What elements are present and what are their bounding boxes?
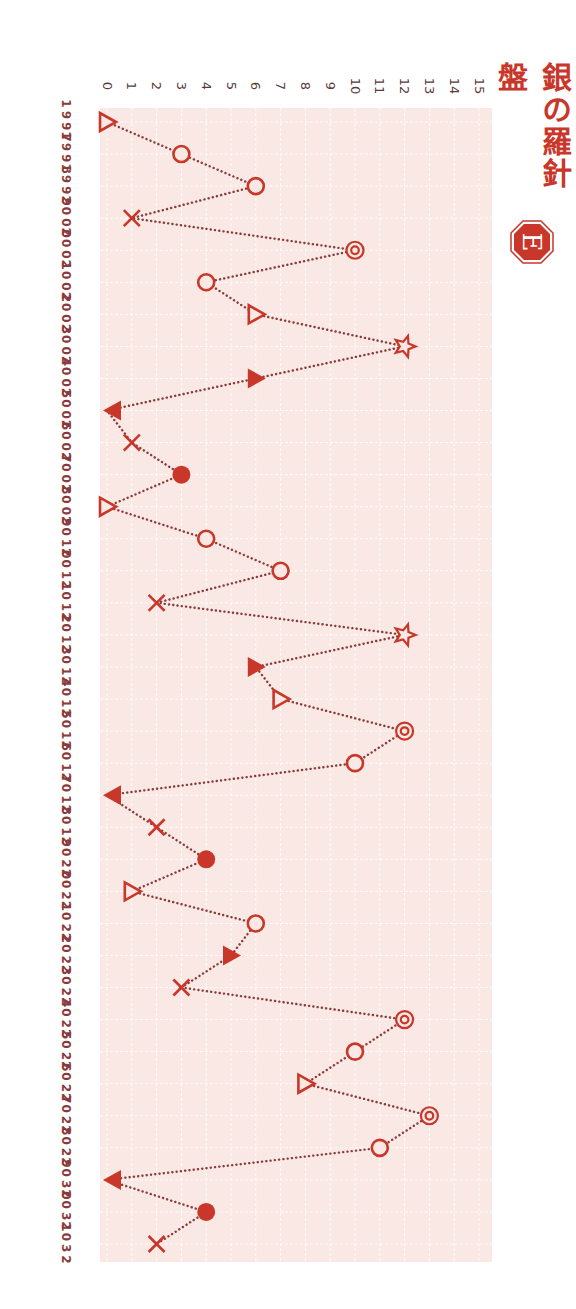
value-axis-tick-label: 0: [100, 82, 115, 90]
chart-title: 銀の羅針盤: [488, 62, 576, 212]
value-axis-tick-label: 1: [124, 82, 139, 90]
value-axis-tick-label: 11: [372, 78, 387, 95]
value-axis-tick-label: 9: [323, 82, 338, 90]
circle-open-marker-icon: [372, 1140, 388, 1156]
value-axis-tick-label: 14: [447, 78, 462, 95]
badge-letter: E: [517, 233, 547, 252]
value-axis-tick-label: 10: [348, 78, 363, 95]
double-circle-marker-icon: [396, 1011, 413, 1028]
circle-open-marker-icon: [198, 274, 214, 290]
value-axis-tick-label: 5: [224, 82, 239, 90]
value-axis-tick-label: 7: [273, 82, 288, 90]
value-axis-tick-label: 15: [472, 78, 487, 95]
value-axis-tick-label: 8: [298, 82, 313, 90]
circle-filled-marker-icon: [197, 1203, 215, 1221]
year-axis-labels: 1997199819992000200120022003200420052006…: [59, 99, 73, 1266]
circle-open-marker-icon: [248, 915, 264, 931]
circle-open-marker-icon: [347, 755, 363, 771]
value-axis-tick-label: 12: [397, 78, 412, 95]
value-axis-tick-label: 13: [422, 78, 437, 95]
value-axis-labels: 0123456789101112131415: [100, 78, 487, 95]
value-axis-tick-label: 2: [149, 82, 164, 90]
year-axis-tick-label: 2032: [59, 1221, 73, 1266]
grade-badge: E: [510, 220, 554, 264]
circle-filled-marker-icon: [197, 850, 215, 868]
double-circle-marker-icon: [396, 723, 413, 740]
circle-filled-marker-icon: [172, 466, 190, 484]
circle-open-marker-icon: [173, 146, 189, 162]
value-axis-tick-label: 6: [248, 82, 263, 90]
circle-open-marker-icon: [347, 1044, 363, 1060]
double-circle-marker-icon: [347, 242, 364, 259]
circle-open-marker-icon: [198, 531, 214, 547]
value-axis-tick-label: 3: [174, 82, 189, 90]
circle-open-marker-icon: [273, 563, 289, 579]
double-circle-marker-icon: [421, 1107, 438, 1124]
chart-title-container: 銀の羅針盤: [512, 62, 552, 212]
value-axis-tick-label: 4: [199, 82, 214, 90]
circle-open-marker-icon: [248, 178, 264, 194]
plot-area: [100, 108, 492, 1262]
